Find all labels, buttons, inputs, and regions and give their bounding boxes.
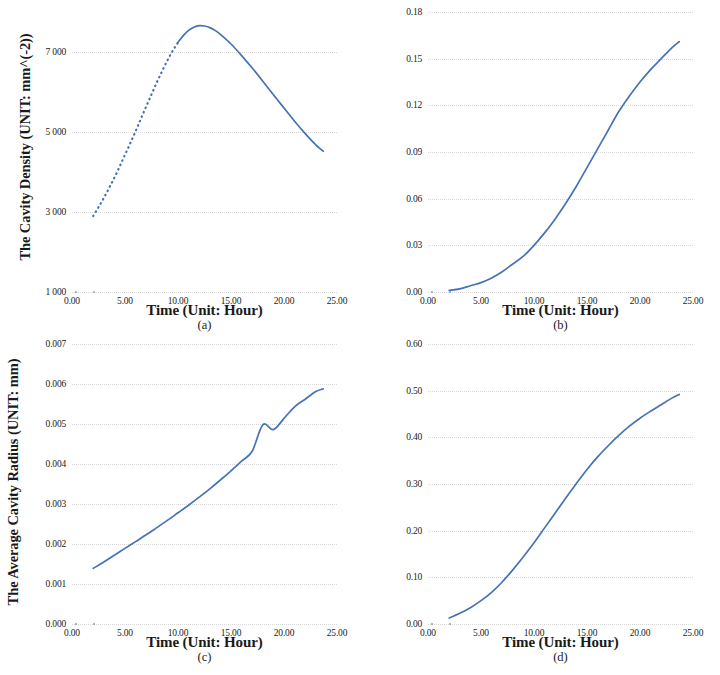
series-line-d [428,344,693,624]
y-tick-label: 0.60 [406,339,422,349]
chart-panel-b: The Damage Variable β0.000.030.060.090.1… [360,0,720,337]
y-tick-label: 0.50 [406,386,422,396]
panel-sublabel-b: (b) [428,318,693,333]
y-tick-label: 0.15 [406,54,422,64]
panel-sublabel-d: (d) [428,650,693,665]
y-tick-label: 1 000 [46,287,66,297]
y-tick-label: 0.09 [406,147,422,157]
plot-area-c: 0.0000.0010.0020.0030.0040.0050.0060.007… [72,344,337,624]
y-tick-label: 0.06 [406,194,422,204]
x-axis-title-b: Time (Unit: Hour) [428,302,693,319]
gridline-a [72,292,337,293]
panel-sublabel-c: (c) [72,650,337,665]
y-tick-labels-a: 1 0003 0005 0007 000 [20,12,66,292]
y-tick-label: 0.10 [406,572,422,582]
y-tick-label: 0.003 [46,499,66,509]
gridline-c [72,624,337,625]
plot-area-b: 0.000.030.060.090.120.150.180.005.0010.0… [428,12,693,292]
plot-area-a: 1 0003 0005 0007 0000.005.0010.0015.0020… [72,12,337,292]
chart-panel-c: The Average Cavity Radius (UNIT: mm)0.00… [0,332,360,669]
x-axis-title-d: Time (Unit: Hour) [428,634,693,651]
y-tick-labels-b: 0.000.030.060.090.120.150.18 [376,12,422,292]
y-tick-label: 5 000 [46,127,66,137]
y-tick-label: 0.002 [46,539,66,549]
series-line-a [72,12,337,292]
y-tick-label: 0.20 [406,526,422,536]
series-line-b [428,12,693,292]
series-line-c [72,344,337,624]
gridline-d [428,624,693,625]
y-tick-labels-c: 0.0000.0010.0020.0030.0040.0050.0060.007 [20,344,66,624]
x-axis-title-c: Time (Unit: Hour) [72,634,337,651]
y-tick-label: 3 000 [46,207,66,217]
y-tick-label: 0.005 [46,419,66,429]
y-tick-label: 0.18 [406,7,422,17]
x-axis-title-a: Time (Unit: Hour) [72,302,337,319]
four-panel-figure: The Cavity Density (UNIT: mm^(-2))1 0003… [0,0,720,675]
y-tick-label: 0.40 [406,432,422,442]
y-tick-label: 0.30 [406,479,422,489]
gridline-b [428,292,693,293]
chart-panel-a: The Cavity Density (UNIT: mm^(-2))1 0003… [0,0,360,337]
panel-sublabel-a: (a) [72,318,337,333]
y-tick-label: 0.12 [406,100,422,110]
y-tick-labels-d: 0.000.100.200.300.400.500.60 [376,344,422,624]
y-tick-label: 7 000 [46,47,66,57]
y-tick-label: 0.006 [46,379,66,389]
y-tick-label: 0.004 [46,459,66,469]
chart-panel-d: The Damage Area Fraction ω0.000.100.200.… [360,332,720,669]
y-tick-label: 0.000 [46,619,66,629]
y-tick-label: 0.001 [46,579,66,589]
plot-area-d: 0.000.100.200.300.400.500.600.005.0010.0… [428,344,693,624]
y-tick-label: 0.007 [46,339,66,349]
y-tick-label: 0.03 [406,240,422,250]
